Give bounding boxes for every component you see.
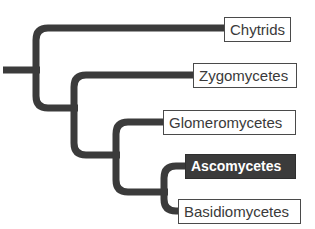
taxon-name-basidiomycetes: Basidiomycetes xyxy=(184,204,289,219)
taxon-label-zygomycetes: Zygomycetes xyxy=(193,63,297,88)
taxon-label-glomeromycetes: Glomeromycetes xyxy=(163,110,296,135)
taxon-name-zygomycetes: Zygomycetes xyxy=(199,68,288,83)
taxon-label-basidiomycetes: Basidiomycetes xyxy=(178,199,301,224)
taxon-name-ascomycetes: Ascomycetes xyxy=(191,159,281,173)
taxon-label-chytrids: Chytrids xyxy=(224,17,291,42)
branch-glomeromycetes xyxy=(116,122,168,192)
taxon-name-chytrids: Chytrids xyxy=(230,22,285,37)
taxon-name-glomeromycetes: Glomeromycetes xyxy=(169,115,282,130)
taxon-label-ascomycetes: Ascomycetes xyxy=(185,154,296,179)
cladogram-figure: Chytrids Zygomycetes Glomeromycetes Asco… xyxy=(0,0,315,229)
